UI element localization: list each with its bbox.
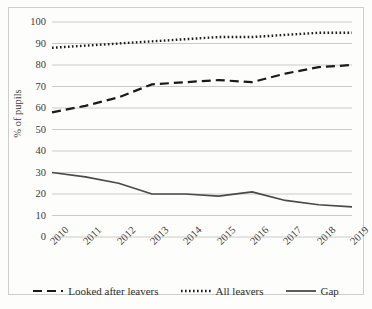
legend-label: All leavers [216,285,264,297]
legend-swatch-dashed [33,286,63,296]
y-axis-tick-label: 90 [2,38,46,49]
y-axis-tick-labels: 0102030405060708090100 [0,22,46,237]
y-axis-tick-label: 20 [2,189,46,200]
gridlines [52,22,352,237]
legend-item[interactable]: All leavers [181,285,264,297]
y-axis-tick-label: 0 [2,232,46,243]
legend-item[interactable]: Gap [286,285,339,297]
legend-label: Looked after leavers [68,285,158,297]
legend-item[interactable]: Looked after leavers [33,285,158,297]
series-line [52,65,352,112]
plot-svg [52,22,352,237]
x-axis-tick-labels: 2010201120122013201420152016201720182019 [52,239,352,279]
plot-area [52,22,352,237]
chart-figure: % of pupils 0102030405060708090100 20102… [0,0,372,309]
y-axis-tick-label: 10 [2,210,46,221]
y-axis-tick-label: 40 [2,146,46,157]
series-lines [52,33,352,207]
y-axis-tick-label: 100 [2,17,46,28]
y-axis-tick-label: 60 [2,103,46,114]
series-line [52,173,352,207]
y-axis-tick-label: 50 [2,124,46,135]
series-line [52,33,352,48]
legend-swatch-dotted [181,286,211,296]
y-axis-tick-label: 30 [2,167,46,178]
chart-legend: Looked after leaversAll leaversGap [8,281,364,301]
legend-swatch-solid [286,286,316,296]
y-axis-tick-label: 70 [2,81,46,92]
legend-label: Gap [321,285,339,297]
y-axis-tick-label: 80 [2,60,46,71]
